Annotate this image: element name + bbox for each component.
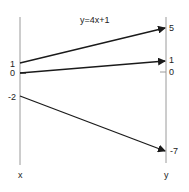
y-axis-label: y [164,170,169,180]
function-title: y=4x+1 [80,15,110,25]
x-axis-label: x [18,170,23,180]
arrow-1-to-5 [20,28,165,63]
y-tick-label-neg7: -7 [170,146,178,156]
arrow-0-to-1 [20,61,165,73]
y-tick-label-0: 0 [169,67,174,77]
y-tick-label-5: 5 [169,23,174,33]
arrow-neg2-to-neg7 [20,96,165,151]
x-tick-label-0: 0 [10,68,15,78]
y-tick-label-1: 1 [169,55,174,65]
diagram-svg: y=4x+1 1 0 -2 x 5 1 0 -7 y [0,0,189,192]
mapping-diagram: y=4x+1 1 0 -2 x 5 1 0 -7 y [0,0,189,192]
x-tick-label-neg2: -2 [8,92,16,102]
